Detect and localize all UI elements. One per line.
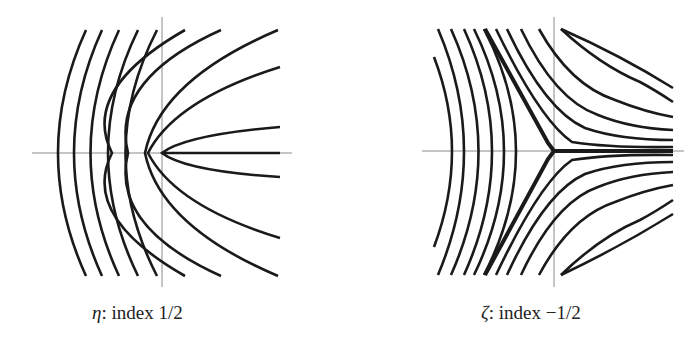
eta-caption: η: index 1/2 xyxy=(92,302,183,324)
zeta-caption-text: : index −1/2 xyxy=(489,302,581,323)
zeta-caption: ζ: index −1/2 xyxy=(481,302,581,324)
figure-canvas xyxy=(0,0,694,347)
eta-curves xyxy=(58,30,280,276)
zeta-diagram xyxy=(422,17,684,287)
eta-caption-text: : index 1/2 xyxy=(101,302,182,323)
zeta-symbol: ζ xyxy=(481,302,489,323)
eta-diagram xyxy=(32,17,292,287)
